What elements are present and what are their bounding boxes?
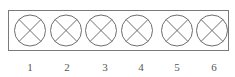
lamp-label-1: 1: [20, 61, 40, 73]
lamp-icon-1: [15, 15, 46, 46]
lamp-icon-5: [162, 15, 193, 46]
lamp-label-2: 2: [57, 61, 77, 73]
lamp-label-5: 5: [167, 61, 187, 73]
lamp-label-4: 4: [131, 61, 151, 73]
lamp-label-6: 6: [204, 61, 224, 73]
lamp-icon-3: [86, 15, 117, 46]
lamp-label-3: 3: [95, 61, 115, 73]
lamp-icon-4: [122, 15, 153, 46]
lamp-icon-2: [51, 15, 82, 46]
lamp-icon-6: [197, 15, 228, 46]
